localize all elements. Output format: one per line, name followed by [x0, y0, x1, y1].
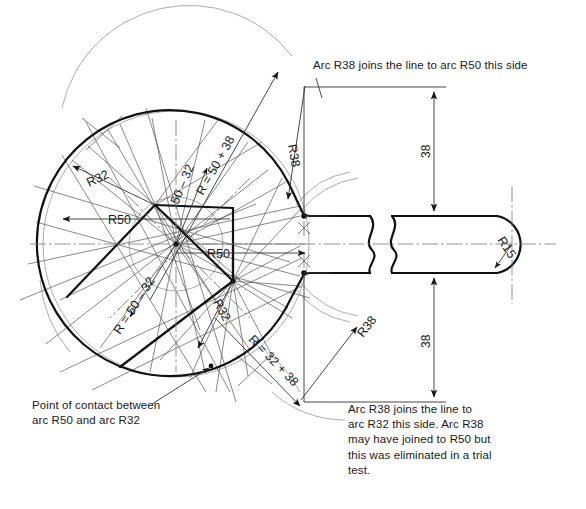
label-r32-upper: R32	[84, 167, 111, 189]
label-r50-minus-32-left: R = 50 – 32	[111, 274, 158, 336]
leader-r32-upper	[73, 166, 155, 205]
lower-jaw-r38	[286, 273, 310, 308]
leader-r38-upper	[288, 86, 305, 199]
contact-point-r50-r32	[209, 364, 214, 369]
label-r38-lower: R38	[354, 313, 379, 340]
label-r50-upper: R50	[108, 213, 131, 227]
label-r38-upper: R38	[285, 143, 303, 168]
label-50-minus-32: 50 – 32	[168, 162, 197, 206]
label-r50-lower: R50	[207, 247, 230, 261]
head-arc-r50	[37, 110, 288, 376]
break-line-left	[369, 216, 375, 273]
dim-label-lower-38: 38	[419, 334, 433, 348]
label-r15: R15	[494, 234, 518, 261]
part-outline	[37, 110, 521, 376]
note-point-of-contact: Point of contact between arc R50 and arc…	[32, 398, 160, 428]
radius-callouts: R = 50 + 38 50 – 32 R = 50 – 32 R32 R50 …	[63, 72, 519, 406]
note-arc-r38-r32: Arc R38 joins the line to arc R32 this s…	[348, 402, 492, 478]
leader-note-bottom-left	[152, 368, 209, 404]
dimension-upper-38: 38	[304, 87, 446, 216]
note-arc-r38-r50: Arc R38 joins the line to arc R50 this s…	[313, 58, 528, 73]
leader-r38-lower	[301, 327, 357, 400]
dimension-lower-38: 38	[304, 273, 446, 402]
break-line-right	[391, 216, 397, 273]
label-r32-plus-38: R = 32 + 38	[246, 332, 301, 389]
dim-label-upper-38: 38	[419, 144, 433, 158]
drawing-canvas: R = 50 + 38 50 – 32 R = 50 – 32 R32 R50 …	[0, 0, 586, 509]
leader-note-top-right	[316, 78, 322, 98]
technical-drawing-svg: R = 50 + 38 50 – 32 R = 50 – 32 R32 R50 …	[0, 0, 586, 509]
